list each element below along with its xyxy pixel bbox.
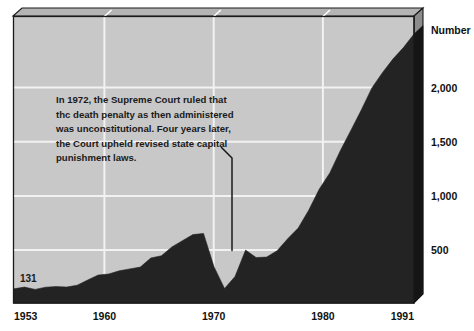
x-tick-label-1980: 1980 (311, 310, 335, 322)
annotation-line-3: was unconstitutional. Four years later, (55, 123, 231, 134)
area-series-right-face (414, 26, 423, 304)
x-axis-tick-labels: 1953 1960 1970 1980 1991 (14, 310, 414, 322)
annotation-line-2: thc death penalty as then administered (56, 109, 234, 120)
annotation-line-5: punishment laws. (56, 152, 137, 163)
y-axis-tick-labels: 2,000 1,500 1,000 500 (431, 82, 457, 257)
annotation-line-1: In 1972, the Supreme Court ruled that (56, 94, 227, 105)
x-tick-label-1991: 1991 (391, 310, 415, 322)
y-tick-label-1000: 1,000 (431, 190, 457, 202)
x-tick-label-1960: 1960 (93, 310, 117, 322)
data-label-first-point: 131 (20, 273, 37, 284)
y-tick-label-2000: 2,000 (431, 82, 457, 94)
annotation-line-4: the Court upheld revised state capital (56, 138, 227, 149)
death-row-population-chart: In 1972, the Supreme Court ruled that th… (0, 0, 474, 331)
y-axis-title: Number (431, 24, 471, 36)
y-tick-label-1500: 1,500 (431, 136, 457, 148)
y-tick-label-500: 500 (431, 244, 449, 256)
x-tick-label-1953: 1953 (14, 310, 38, 322)
x-tick-label-1970: 1970 (202, 310, 226, 322)
chart-canvas: In 1972, the Supreme Court ruled that th… (0, 0, 474, 331)
